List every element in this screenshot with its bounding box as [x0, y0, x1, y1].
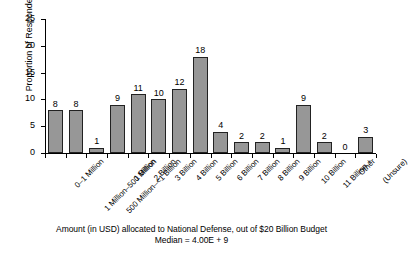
bar-value-label: 10: [148, 88, 169, 98]
bar-slot: 2: [231, 19, 252, 153]
bar-slot: 2: [314, 19, 335, 153]
y-axis-tick-label: 20: [15, 40, 35, 50]
y-axis-tick-label: 25: [15, 13, 35, 23]
bar-slot: 8: [66, 19, 87, 153]
y-axis-tick: 20: [41, 46, 45, 47]
x-axis-tick-labels: 0–1 Million1 Million–500 Million500 Mill…: [45, 157, 376, 219]
bar-value-label: 9: [107, 93, 128, 103]
bar[interactable]: [89, 148, 104, 153]
bar-slot: 18: [190, 19, 211, 153]
y-axis-tick: 15: [41, 73, 45, 74]
bar-value-label: 0: [335, 142, 356, 152]
bar[interactable]: [296, 105, 311, 153]
y-axis-tick-label: 0: [15, 147, 35, 157]
x-axis-label: 7 Billion: [256, 157, 282, 183]
x-axis-label-text: 8 Billion: [276, 157, 302, 183]
x-axis-label: 0–1 Million: [72, 157, 105, 190]
x-axis-label: (Unsure): [381, 157, 409, 185]
bar-slot: 11: [128, 19, 149, 153]
x-axis-label: Other: [357, 157, 377, 177]
bar-slot: 10: [148, 19, 169, 153]
bar-slot: 1: [86, 19, 107, 153]
bar-value-label: 18: [190, 45, 211, 55]
x-axis-label: 8 Billion: [276, 157, 302, 183]
bar-slot: 2: [252, 19, 273, 153]
bar-slot: 8: [45, 19, 66, 153]
bar-slot: 3: [355, 19, 376, 153]
caption-line-2: Median = 4.00E + 9: [0, 235, 383, 246]
bar[interactable]: [110, 105, 125, 153]
bar[interactable]: [193, 57, 208, 153]
bar-value-label: 2: [252, 131, 273, 141]
x-axis-label: 4 Billion: [194, 157, 220, 183]
caption-line-1: Amount (in USD) allocated to National De…: [56, 224, 327, 234]
bar-slot: 0: [335, 19, 356, 153]
x-axis-label-text: 0–1 Million: [72, 157, 105, 190]
plot-area: 88191110121842219203 0510152025: [45, 19, 376, 153]
bar-value-label: 3: [355, 125, 376, 135]
bar-value-label: 2: [231, 131, 252, 141]
bar-value-label: 8: [45, 99, 66, 109]
chart-caption: Amount (in USD) allocated to National De…: [0, 224, 383, 246]
x-axis-label: 5 Billion: [214, 157, 240, 183]
x-axis-label-text: 7 Billion: [256, 157, 282, 183]
y-axis-tick: 25: [41, 19, 45, 20]
bar-value-label: 12: [169, 77, 190, 87]
bar[interactable]: [234, 142, 249, 153]
x-axis-tick: [376, 154, 377, 158]
bar-value-label: 8: [66, 99, 87, 109]
x-axis-label-text: 5 Billion: [214, 157, 240, 183]
bar-slot: 1: [273, 19, 294, 153]
bar-value-label: 4: [211, 120, 232, 130]
bars-group: 88191110121842219203: [45, 19, 376, 153]
bar[interactable]: [213, 132, 228, 153]
bar-value-label: 9: [293, 93, 314, 103]
y-axis-tick-label: 10: [15, 93, 35, 103]
bar[interactable]: [275, 148, 290, 153]
bar[interactable]: [317, 142, 332, 153]
x-axis-label-text: Other: [357, 157, 377, 177]
bar-slot: 9: [107, 19, 128, 153]
bar[interactable]: [69, 110, 84, 153]
bar[interactable]: [358, 137, 373, 153]
bar[interactable]: [131, 94, 146, 153]
bar[interactable]: [151, 99, 166, 153]
bar-slot: 9: [293, 19, 314, 153]
bar-value-label: 11: [128, 83, 149, 93]
x-axis-label-text: 4 Billion: [194, 157, 220, 183]
x-axis-label: 6 Billion: [235, 157, 261, 183]
bar-slot: 12: [169, 19, 190, 153]
y-axis-tick: 10: [41, 99, 45, 100]
bar[interactable]: [48, 110, 63, 153]
bar-value-label: 2: [314, 131, 335, 141]
y-axis-tick-label: 15: [15, 67, 35, 77]
y-axis-tick: 5: [41, 126, 45, 127]
bar-value-label: 1: [273, 136, 294, 146]
x-axis-label-text: 6 Billion: [235, 157, 261, 183]
bar-value-label: 1: [86, 136, 107, 146]
y-axis-tick-label: 5: [15, 120, 35, 130]
bar-slot: 4: [211, 19, 232, 153]
bar[interactable]: [255, 142, 270, 153]
x-axis-label-text: (Unsure): [381, 157, 409, 185]
bar[interactable]: [172, 89, 187, 153]
